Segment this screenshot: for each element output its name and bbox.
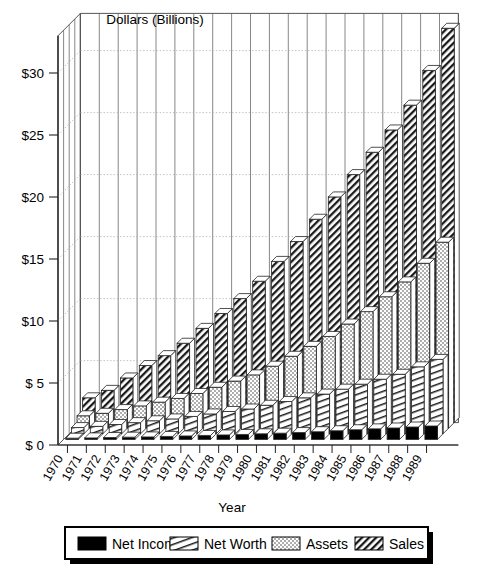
bar <box>85 433 103 439</box>
legend-item[interactable]: Sales <box>355 536 424 552</box>
bar <box>141 432 159 439</box>
bar <box>109 420 127 434</box>
y-axis-tick-label: $20 <box>21 190 44 205</box>
y-axis-tick-label: $15 <box>21 252 44 267</box>
y-axis-tick-label: $10 <box>21 314 44 329</box>
bar <box>425 421 443 439</box>
bar <box>179 431 197 439</box>
legend-label: Net Worth <box>204 536 267 552</box>
bar <box>312 427 330 440</box>
bar <box>123 432 141 439</box>
legend-label: Sales <box>389 536 424 552</box>
bar <box>160 431 178 439</box>
x-axis-tick-label: 1989 <box>399 452 425 483</box>
legend-item[interactable]: Net Worth <box>170 536 267 552</box>
y-axis-tick-label: $ 5 <box>25 376 44 391</box>
y-axis-tick-label: $ 0 <box>25 438 44 453</box>
bar <box>166 414 184 434</box>
x-axis-labels: 1970197119721973197419751976197719781979… <box>40 452 425 483</box>
bar <box>90 421 108 433</box>
y-axis-labels: $ 0$ 5$10$15$20$25$30 <box>21 66 44 453</box>
chart-legend: Net IncomeNet WorthAssetsSales <box>65 527 433 564</box>
bar <box>330 426 348 440</box>
bar <box>349 425 367 440</box>
bar <box>387 423 405 439</box>
bar <box>104 433 122 440</box>
legend-swatch-solid-black <box>78 537 106 550</box>
chart-title: Dollars (Billions) <box>106 12 204 27</box>
x-axis-title: Year <box>218 500 246 515</box>
chart-page: Dollars (Billions) Year $ 0$ 5$10$15$20$… <box>0 0 497 568</box>
legend-swatch-dotted <box>272 537 300 550</box>
three-d-bar-chart: Dollars (Billions) Year $ 0$ 5$10$15$20$… <box>0 0 497 568</box>
bar <box>198 430 216 439</box>
legend-item[interactable]: Net Income <box>78 536 184 552</box>
legend-label: Assets <box>306 536 348 552</box>
plot-area <box>49 13 459 453</box>
bar <box>147 416 165 434</box>
bar <box>406 422 424 439</box>
bar <box>368 424 386 440</box>
bar <box>128 418 146 434</box>
legend-swatch-steep-hatch <box>170 537 198 550</box>
bar <box>217 430 235 439</box>
legend-swatch-diagonal-hatch <box>355 537 383 550</box>
y-axis-tick-label: $30 <box>21 66 44 81</box>
legend-item[interactable]: Assets <box>272 536 348 552</box>
y-axis-tick-label: $25 <box>21 128 44 143</box>
bar <box>185 411 203 433</box>
